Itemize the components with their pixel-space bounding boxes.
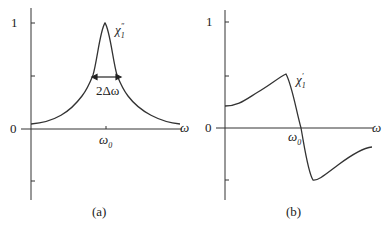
panel-a-tick-label-1: 1	[11, 16, 18, 29]
panel-a-chi-sup: ″	[121, 22, 124, 31]
panel-a-width-label: 2Δω	[96, 84, 119, 97]
panel-a-chi-sub: 1	[121, 31, 125, 40]
panel-b-chi-sub: 1	[302, 81, 306, 90]
panel-b-caption: (b)	[286, 205, 301, 218]
panel-a-width-arrow	[92, 75, 121, 80]
figure-canvas	[0, 0, 389, 225]
panel-a-center-omega: ω	[99, 132, 108, 147]
panel-a-axes	[21, 8, 182, 200]
panel-b-center-sub: 0	[297, 138, 301, 147]
panel-a-center-sub: 0	[108, 141, 112, 150]
panel-b-axes	[216, 10, 373, 200]
panel-a-curve	[31, 23, 180, 124]
panel-b-chi-sup: ′	[302, 72, 304, 81]
panel-b-tick-label-0: 0	[205, 121, 212, 134]
panel-b-center-omega: ω	[288, 129, 297, 144]
panel-a-center-label: ω0	[99, 133, 112, 150]
panel-b-center-label: ω0	[288, 130, 301, 147]
panel-b-axis-label: ω	[372, 121, 381, 134]
panel-a-caption: (a)	[92, 205, 106, 218]
panel-a-tick-label-0: 0	[10, 122, 17, 135]
panel-b-tick-label-1: 1	[206, 15, 213, 28]
panel-a-curve-label: χ1″	[115, 23, 124, 40]
panel-b-curve-label: χ1′	[296, 73, 303, 90]
panel-a-axis-label: ω	[180, 121, 189, 134]
